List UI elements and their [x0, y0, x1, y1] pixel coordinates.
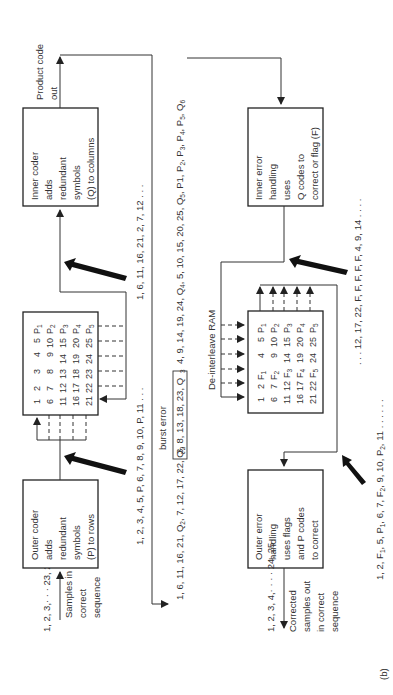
burst-error-label: burst error	[157, 406, 168, 450]
outer-coder-label: Outer coder adds redundant symbols (P) t…	[29, 510, 96, 560]
outer-output-sequence: 1, 2, 3, 4, 5, P, 6, 7, 8, 9, 10, P, 11 …	[134, 388, 145, 545]
channel-to-decoder-line	[187, 58, 281, 104]
svg-text:Product code: Product code	[34, 44, 45, 100]
output-caption: Corrected samples out in correct sequenc…	[287, 580, 340, 632]
svg-text:uses flags: uses flags	[281, 517, 292, 560]
svg-text:symbols: symbols	[71, 525, 82, 560]
svg-text:Inner coder: Inner coder	[29, 152, 40, 200]
svg-text:(b): (b)	[378, 668, 389, 680]
interleave-output-pointer	[64, 258, 127, 281]
svg-text:handling: handling	[267, 164, 278, 200]
product-code-diagram: 1, 2, 3,· · · 23, 24, 25 Samples in corr…	[0, 0, 393, 695]
svg-text:correct or flag (F): correct or flag (F)	[309, 127, 320, 200]
product-code-out-label: Product code out	[34, 44, 59, 100]
svg-text:adds: adds	[43, 179, 54, 200]
svg-text:4, 9, 14, 19, 24, Q4, 5, 10, 1: 4, 9, 14, 19, 24, Q4, 5, 10, 15, 20, 25,…	[174, 100, 186, 365]
svg-text:out: out	[48, 86, 59, 100]
svg-text:Q codes to: Q codes to	[295, 154, 306, 200]
svg-text:sequence: sequence	[329, 591, 340, 632]
outer-output-pointer	[64, 452, 127, 475]
deinterleave-label: De-interleave RAM	[206, 310, 217, 390]
inner-output-sequence: . . . 12, 17, 22, F, F, F, F, F, 4, 9, 1…	[352, 199, 363, 365]
svg-text:samples out: samples out	[301, 580, 312, 632]
svg-text:1, 6, 11, 16, 21, 2, 7, 12 . .: 1, 6, 11, 16, 21, 2, 7, 12 . . .	[134, 185, 145, 300]
svg-text:in correct: in correct	[315, 593, 326, 632]
inner-output-pointer	[289, 255, 348, 275]
output-label: 1, 2, 3, 4,· · · · 24, 25	[265, 543, 276, 632]
svg-text:symbols: symbols	[71, 165, 82, 200]
deinterleave-output-sequence: 1, 2, F1, 5, P1, 6, 7, F2, 9, 10, P2, 11…	[374, 399, 386, 580]
svg-text:De-interleave RAM: De-interleave RAM	[206, 310, 217, 390]
svg-text:Outer coder: Outer coder	[29, 510, 40, 560]
svg-text:sequence: sequence	[91, 577, 102, 618]
svg-text:redundant: redundant	[57, 517, 68, 560]
svg-text:1, 2, 3, 4, 5, P, 6, 7, 8, 9,: 1, 2, 3, 4, 5, P, 6, 7, 8, 9, 10, P, 11 …	[134, 388, 145, 545]
svg-text:uses: uses	[281, 180, 292, 200]
svg-text:correct: correct	[77, 589, 88, 618]
svg-text:Samples in: Samples in	[63, 571, 74, 618]
svg-text:to correct: to correct	[309, 520, 320, 560]
figure-label: (b)	[378, 668, 389, 680]
interleave-output-sequence: 1, 6, 11, 16, 21, 2, 7, 12 . . .	[134, 185, 145, 300]
transmitted-sequence: 1, 6, 11, 16, 21, Q2, 7, 12, 17, 22, Q2 …	[174, 100, 186, 601]
deinterleave-output-pointer	[342, 455, 366, 485]
svg-text:and P codes: and P codes	[295, 507, 306, 560]
svg-text:(P) to rows: (P) to rows	[85, 514, 96, 560]
svg-text:. . . 12, 17, 22, F, F, F, F,: . . . 12, 17, 22, F, F, F, F, F, 4, 9, 1…	[352, 199, 363, 365]
svg-text:(Q) to columns: (Q) to columns	[85, 137, 96, 200]
input-caption: Samples in correct sequence	[63, 571, 102, 618]
svg-text:burst error: burst error	[157, 406, 168, 450]
svg-text:Corrected: Corrected	[287, 590, 298, 632]
svg-text:3, 8, 13, 18, 23, Q: 3, 8, 13, 18, 23, Q	[174, 378, 185, 454]
svg-text:1, 2, 3, 4,· · · · 24, 25: 1, 2, 3, 4,· · · · 24, 25	[265, 543, 276, 632]
svg-text:redundant: redundant	[57, 157, 68, 200]
svg-text:1, 2, F1, 5, P1, 6, 7, F2, 9,: 1, 2, F1, 5, P1, 6, 7, F2, 9, 10, P2, 11…	[374, 399, 386, 580]
svg-text:adds: adds	[43, 539, 54, 560]
svg-text:Outer error: Outer error	[253, 514, 264, 560]
svg-text:Inner error: Inner error	[253, 156, 264, 200]
svg-text:1, 6, 11, 16, 21, Q2, 7, 12, 1: 1, 6, 11, 16, 21, Q2, 7, 12, 17, 22, Q2	[174, 446, 186, 600]
